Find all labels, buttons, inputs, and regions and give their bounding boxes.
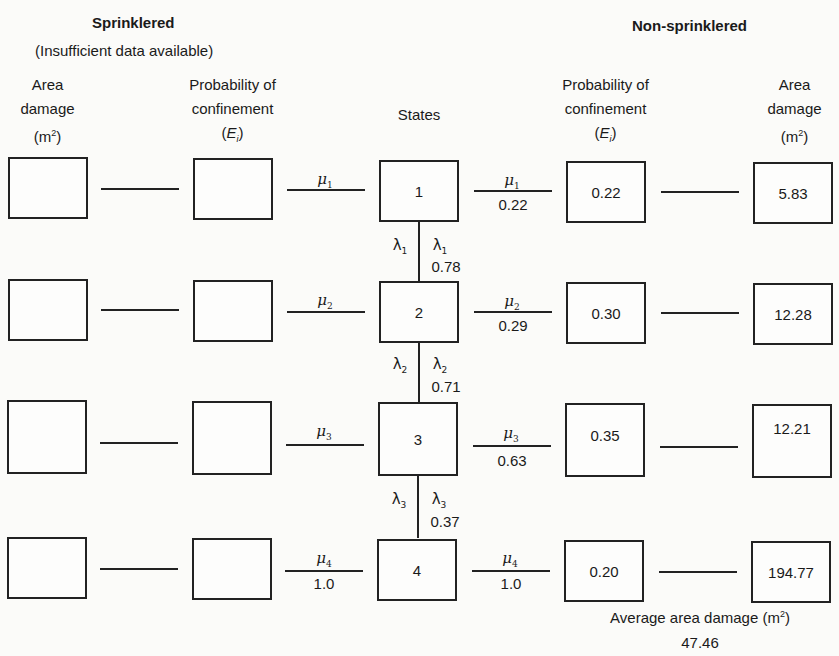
nonspr-area-box-3: 12.21 [752,404,832,478]
lambda-left-3: λ3 [387,490,411,510]
header-line: damage [0,97,95,121]
sprinklered-prob-box-4 [192,538,272,600]
header-line: Probability of [543,73,668,97]
mu-right-value-4: 1.0 [486,575,536,592]
connector-line [472,570,550,572]
connector-line [473,445,551,447]
state-box-1: 1 [379,160,459,222]
sprinklered-area-box-1 [8,157,88,219]
connector-line [661,191,739,193]
state-box-3: 3 [378,402,458,476]
sprinklered-note: (Insufficient data available) [35,42,213,59]
nonspr-prob-box-1: 0.22 [566,161,646,223]
header-line: confinement [543,97,668,121]
connector-line [100,568,178,570]
sprinklered-prob-box-2 [193,280,273,342]
connector-line [661,312,739,314]
mu-right-value-3: 0.63 [487,452,537,469]
sprinklered-area-box-2 [8,279,88,341]
header-line: (m2) [750,121,839,149]
mu-right-label-1: μ1 [497,171,527,191]
header-line: (Ei) [543,121,668,151]
sprinklered-prob-box-3 [192,401,272,475]
lambda-right-3: λ3 [427,490,451,510]
header-line: (Ei) [170,121,295,151]
sprinklered-prob-box-1 [193,158,273,220]
mu-left-label-4: μ4 [309,549,339,569]
connector-line [100,442,178,444]
sprinklered-area-box-4 [7,537,87,599]
connector-line [101,188,179,190]
state-box-2: 2 [379,281,459,343]
nonspr-prob-box-4: 0.20 [564,540,644,602]
transition-line-2-3 [418,343,420,403]
header-line: damage [750,97,839,121]
header-states: States [379,103,459,127]
header-line: Area [0,73,95,97]
header-line: (m2) [0,121,95,149]
lambda-right-2: λ2 [428,355,452,375]
lambda-value-3: 0.37 [425,513,465,530]
mu-left-label-3: μ3 [309,422,339,442]
lambda-left-1: λ1 [388,236,412,256]
connector-line [101,309,179,311]
mu-left-label-2: μ2 [310,291,340,311]
mu-right-label-3: μ3 [496,424,526,444]
header-line: Probability of [170,73,295,97]
mu-right-label-2: μ2 [497,292,527,312]
state-box-4: 4 [377,539,457,601]
mu-right-label-4: μ4 [495,549,525,569]
header-sprinklered-prob: Probability of confinement (Ei) [170,73,295,151]
mu-left-value-4: 1.0 [299,575,349,592]
sprinklered-heading: Sprinklered [92,14,175,31]
connector-line [659,571,737,573]
mu-left-label-1: μ1 [310,170,340,190]
connector-line [287,311,365,313]
transition-line-3-4 [417,476,419,538]
header-sprinklered-area: Area damage (m2) [0,73,95,149]
average-area-damage-value: 47.46 [660,634,740,651]
nonspr-prob-box-2: 0.30 [566,282,646,344]
non-sprinklered-heading: Non-sprinklered [632,17,747,34]
lambda-left-2: λ2 [388,355,412,375]
nonspr-prob-box-3: 0.35 [565,403,645,477]
connector-line [660,446,738,448]
transition-line-1-2 [418,222,420,282]
header-line: confinement [170,97,295,121]
nonspr-area-box-1: 5.83 [753,162,833,224]
header-nonspr-area: Area damage (m2) [750,73,839,149]
header-line: Area [750,73,839,97]
sprinklered-area-box-3 [7,400,87,474]
nonspr-area-box-2: 12.28 [753,283,833,345]
lambda-value-2: 0.71 [426,378,466,395]
lambda-right-1: λ1 [428,236,452,256]
connector-line [286,444,364,446]
connector-line [285,570,363,572]
average-area-damage-label: Average area damage (m2) [580,609,820,626]
header-nonspr-prob: Probability of confinement (Ei) [543,73,668,151]
lambda-value-1: 0.78 [426,258,466,275]
mu-right-value-2: 0.29 [488,317,538,334]
nonspr-area-box-4: 194.77 [751,541,831,603]
mu-right-value-1: 0.22 [488,196,538,213]
